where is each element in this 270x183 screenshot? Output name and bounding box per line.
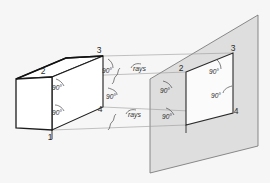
angle-label-mid-top: 90° <box>102 67 112 74</box>
angle-label-plane-lower-left: 90° <box>162 113 172 120</box>
angle-label-box-upper: 90° <box>52 84 62 91</box>
squiggle-rays-upper <box>112 68 120 84</box>
box-front-face <box>16 77 52 130</box>
projected-vertex-4-label: 4 <box>234 106 239 116</box>
box-vertex-2-label: 2 <box>41 66 46 76</box>
box-vertex-1-label: 1 <box>48 132 53 142</box>
figure-canvas: 1 2 3 4 2 3 4 90° 90° 90° 90° 90° 90° 90… <box>0 0 270 183</box>
angle-label-plane-top-right: 90° <box>209 68 219 75</box>
projected-vertex-2-label: 2 <box>179 63 184 73</box>
rays-label-upper: rays <box>133 65 146 73</box>
angle-label-box-lower: 90° <box>52 109 62 116</box>
box-vertex-3-label: 3 <box>97 45 102 55</box>
angle-label-mid-center: 90° <box>106 93 116 100</box>
angle-label-plane-mid-right: 90° <box>211 92 221 99</box>
rays-label-lower: rays <box>128 111 141 119</box>
angle-label-plane-left: 90° <box>160 87 170 94</box>
projection-diagram: 1 2 3 4 2 3 4 90° 90° 90° 90° 90° 90° 90… <box>0 0 270 183</box>
projected-vertex-3-label: 3 <box>231 43 236 53</box>
box-vertex-4-label: 4 <box>98 104 103 114</box>
